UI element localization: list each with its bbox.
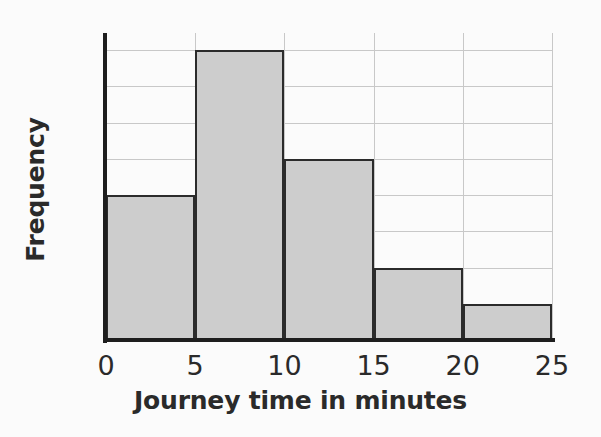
- y-axis-line: [103, 33, 107, 343]
- x-axis-tick-label: 10: [249, 352, 319, 379]
- x-axis-line: [103, 338, 555, 342]
- gridline-horizontal: [106, 86, 552, 87]
- y-axis-title: Frequency: [21, 90, 50, 290]
- x-axis-tick-label: 15: [339, 352, 409, 379]
- histogram-figure: 01020304050607080 Journey time in minute…: [0, 0, 601, 437]
- histogram-bar: [106, 195, 195, 340]
- histogram-bar: [374, 268, 463, 341]
- plot-area: [106, 50, 552, 340]
- x-axis-tick-label: 20: [428, 352, 498, 379]
- gridline-horizontal: [106, 50, 552, 51]
- x-axis-tick-label: 5: [160, 352, 230, 379]
- histogram-bar: [463, 304, 552, 340]
- histogram-bar: [195, 50, 284, 340]
- x-axis-tick-label: 0: [71, 352, 141, 379]
- gridline-vertical: [463, 33, 464, 340]
- x-axis-title: Journey time in minutes: [0, 386, 601, 415]
- x-axis-tick-label: 25: [517, 352, 587, 379]
- gridline-horizontal: [106, 123, 552, 124]
- histogram-bar: [284, 159, 373, 340]
- gridline-vertical: [552, 33, 553, 340]
